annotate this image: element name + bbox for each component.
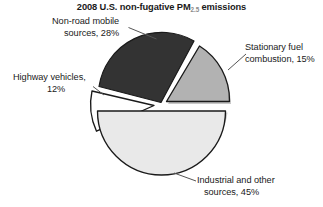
callout-line-1: Non-road mobile (52, 15, 119, 27)
callout-line-2: sources, 45% (197, 186, 275, 198)
callout-line-2: sources, 28% (52, 27, 119, 39)
callout-non-road-mobile-sources: Non-road mobile sources, 28% (52, 15, 119, 39)
pie-slice-industrial-and-other-sources[interactable] (98, 111, 226, 175)
callout-stationary-fuel-combustion: Stationary fuel combustion, 15% (245, 41, 315, 65)
callout-industrial-and-other-sources: Industrial and other sources, 45% (197, 174, 275, 198)
leader-line-stationary-fuel (228, 54, 246, 70)
callout-line-1: Stationary fuel (245, 41, 315, 53)
callout-line-1: Industrial and other (197, 174, 275, 186)
callout-line-1: Highway vehicles, (13, 71, 86, 83)
pie-chart-figure: 2008 U.S. non-fugative PM2.5 emissions N… (0, 0, 323, 207)
callout-line-2: combustion, 15% (245, 53, 315, 65)
callout-highway-vehicles: Highway vehicles, 12% (13, 71, 86, 95)
leader-line-industrial (174, 173, 196, 181)
callout-line-2: 12% (13, 83, 86, 95)
